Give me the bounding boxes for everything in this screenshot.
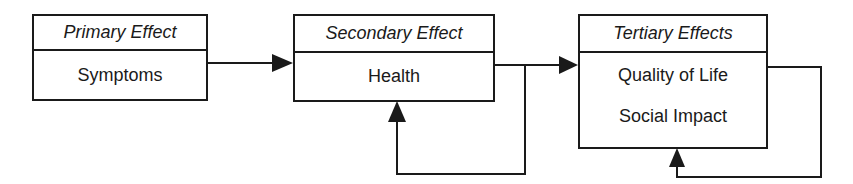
box-tertiary-effects: Tertiary Effects Quality of Life Social … (578, 14, 768, 149)
box-item-health: Health (295, 66, 493, 87)
box-body: Quality of Life Social Impact (580, 53, 766, 147)
box-item-social-impact: Social Impact (580, 106, 766, 127)
box-secondary-effect: Secondary Effect Health (293, 14, 495, 102)
arrow-secondary-to-tertiary (494, 56, 578, 74)
box-body: Health (295, 53, 493, 100)
box-body: Symptoms (34, 51, 206, 99)
box-header: Tertiary Effects (580, 16, 766, 53)
arrowhead-icon (272, 54, 293, 72)
arrowhead-icon (669, 148, 685, 167)
box-header: Secondary Effect (295, 16, 493, 53)
arrowhead-icon (559, 56, 578, 74)
box-item-quality-of-life: Quality of Life (580, 65, 766, 86)
box-primary-effect: Primary Effect Symptoms (32, 14, 208, 101)
box-header: Primary Effect (34, 16, 206, 51)
arrowhead-icon (388, 101, 406, 122)
box-item-symptoms: Symptoms (34, 65, 206, 86)
arrow-primary-to-secondary (207, 54, 293, 72)
